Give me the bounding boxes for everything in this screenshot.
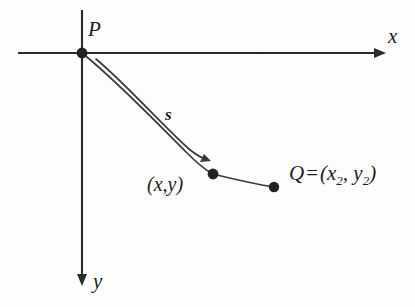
point-q-label: Q=(x2, y2) — [289, 163, 376, 187]
q-close-paren: ) — [369, 161, 376, 185]
x-axis-arrowhead — [374, 48, 386, 58]
point-p-label: P — [88, 19, 101, 40]
q-y-symbol: y — [353, 161, 362, 185]
y-axis-arrowhead — [77, 274, 87, 286]
point-q-dot — [269, 182, 279, 192]
q-open-paren: ( — [320, 161, 327, 185]
point-xy-dot — [208, 169, 219, 180]
q-symbol: Q — [289, 161, 304, 185]
diagram-canvas: P x y s (x,y) Q=(x2, y2) — [0, 0, 415, 307]
x-axis-label: x — [388, 26, 397, 47]
q-x-symbol: x — [327, 161, 336, 185]
y-axis-label: y — [93, 271, 102, 292]
point-p-dot — [77, 48, 88, 59]
q-comma: , — [343, 161, 348, 185]
diagram-svg — [0, 0, 415, 307]
point-xy-label: (x,y) — [147, 174, 183, 194]
curve-inner-path — [96, 59, 205, 159]
arc-length-label: s — [165, 106, 172, 123]
q-equals-sign: = — [304, 161, 320, 185]
